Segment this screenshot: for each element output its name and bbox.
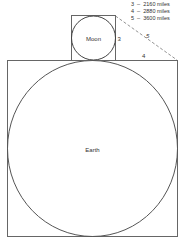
earth-label: Earth bbox=[85, 147, 99, 153]
legend-item-4: 4 – 2880 miles bbox=[131, 8, 170, 14]
legend: 3 – 2160 miles 4 – 2880 miles 5 – 3600 m… bbox=[131, 1, 170, 21]
side-label-3: 3 bbox=[118, 36, 122, 42]
moon-label: Moon bbox=[86, 36, 101, 42]
moon-earth-diagram: Moon Earth 3 4 5 3 – 2160 miles 4 – 2880… bbox=[0, 0, 185, 246]
legend-item-5: 5 – 3600 miles bbox=[131, 15, 170, 21]
legend-item-3: 3 – 2160 miles bbox=[131, 1, 170, 7]
side-label-5: 5 bbox=[146, 33, 150, 39]
side-label-4: 4 bbox=[142, 53, 146, 59]
